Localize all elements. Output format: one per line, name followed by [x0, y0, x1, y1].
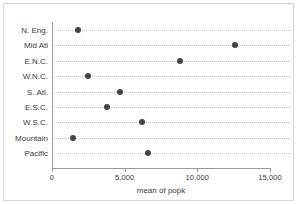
- y-axis-tick-label: Pacific: [0, 149, 48, 158]
- y-axis-tick-label: E.N.C.: [0, 56, 48, 65]
- y-axis-tick-label: W.N.C.: [0, 72, 48, 81]
- x-axis-title: mean of popk: [52, 186, 270, 195]
- y-axis-tick-labels: N. Eng.Mid AtlE.N.C.W.N.C.S. Atl.E.S.C.W…: [0, 0, 297, 204]
- y-axis-tick-label: Mountain: [0, 133, 48, 142]
- y-axis-tick-label: N. Eng.: [0, 25, 48, 34]
- y-axis-tick-label: Mid Atl: [0, 41, 48, 50]
- x-axis-tick: [270, 168, 271, 172]
- y-axis-tick-label: W.S.C.: [0, 118, 48, 127]
- x-axis-tick: [197, 168, 198, 172]
- y-axis-tick-label: E.S.C.: [0, 102, 48, 111]
- x-axis-tick-label: 10,000: [186, 173, 210, 182]
- x-axis-tick-label: 15,000: [258, 173, 282, 182]
- dot-plot-figure: N. Eng.Mid AtlE.N.C.W.N.C.S. Atl.E.S.C.W…: [0, 0, 297, 204]
- y-axis-tick-label: S. Atl.: [0, 87, 48, 96]
- x-axis-tick: [52, 168, 53, 172]
- x-axis-tick-label: 5,000: [115, 173, 134, 182]
- x-axis-tick-label: 0: [50, 173, 54, 182]
- x-axis-tick: [125, 168, 126, 172]
